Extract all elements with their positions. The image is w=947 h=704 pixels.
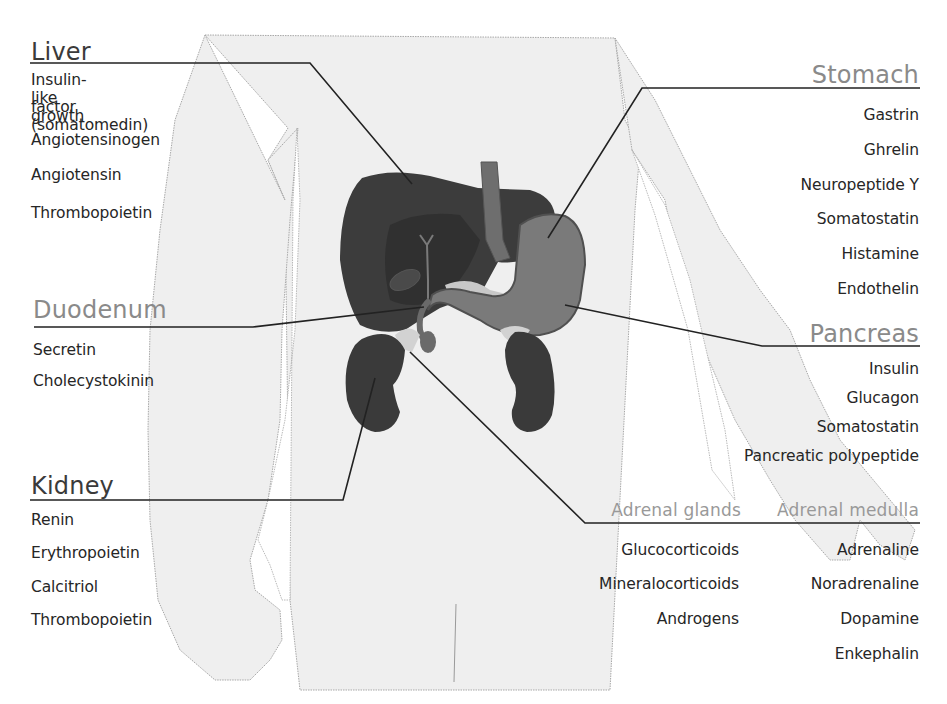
stomach-hormone: Ghrelin xyxy=(864,141,919,159)
liver-heading: Liver xyxy=(31,40,91,64)
duodenum-hormone: Cholecystokinin xyxy=(33,372,154,390)
duodenum-heading: Duodenum xyxy=(33,298,167,322)
adrenal-glands-heading: Adrenal glands xyxy=(611,502,741,519)
stomach-heading: Stomach xyxy=(812,63,919,87)
stomach-hormone: Endothelin xyxy=(837,280,919,298)
adrenal-medulla-heading: Adrenal medulla xyxy=(777,502,919,519)
stomach-hormone: Neuropeptide Y xyxy=(801,176,919,194)
stomach-hormone: Somatostatin xyxy=(817,210,919,228)
adrenal-medulla-hormone: Adrenaline xyxy=(837,541,919,559)
adrenal-glands-hormone: Androgens xyxy=(657,610,739,628)
liver-hormone: Angiotensinogen xyxy=(31,131,160,149)
pancreas-hormone: Somatostatin xyxy=(817,418,919,436)
adrenal-medulla-hormone: Dopamine xyxy=(840,610,919,628)
duodenum-bulb xyxy=(420,331,436,353)
kidney-heading: Kidney xyxy=(31,474,114,498)
adrenal-glands-hormone: Mineralocorticoids xyxy=(599,575,739,593)
adrenal-medulla-hormone: Noradrenaline xyxy=(811,575,919,593)
pancreas-hormone: Glucagon xyxy=(846,389,919,407)
kidney-hormone: Calcitriol xyxy=(31,578,98,596)
stomach-hormone: Histamine xyxy=(842,245,919,263)
liver-hormone: factor (somatomedin) xyxy=(31,98,148,134)
pancreas-hormone: Insulin xyxy=(869,360,919,378)
endocrine-diagram: Liver Insulin-like growth factor (somato… xyxy=(0,0,947,704)
adrenal-glands-hormone: Glucocorticoids xyxy=(621,541,739,559)
kidney-hormone: Erythropoietin xyxy=(31,544,140,562)
duodenum-hormone: Secretin xyxy=(33,341,96,359)
liver-hormone: Angiotensin xyxy=(31,166,122,184)
pancreas-hormone: Pancreatic polypeptide xyxy=(744,447,919,465)
pancreas-heading: Pancreas xyxy=(810,322,919,346)
stomach-hormone: Gastrin xyxy=(864,106,919,124)
kidney-hormone: Renin xyxy=(31,511,74,529)
kidney-hormone: Thrombopoietin xyxy=(31,611,152,629)
liver-hormone: Thrombopoietin xyxy=(31,204,152,222)
adrenal-medulla-hormone: Enkephalin xyxy=(835,645,919,663)
